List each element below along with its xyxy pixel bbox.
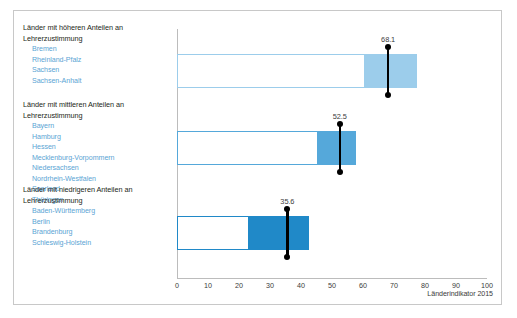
list-item: Hamburg [23,132,163,143]
list-item: Mecklenburg-Vorpommern [23,153,163,164]
x-tick-label: 100 [481,281,493,290]
chart-figure: Länder mit höheren Anteilen an Lehrerzus… [13,10,502,305]
x-tick-label: 30 [266,281,274,290]
group-title-line-1: Länder mit mittleren Anteilen an [23,100,163,111]
list-item: Rheinland-Pfalz [23,55,163,66]
x-axis-line [177,278,487,279]
list-item: Baden-Württemberg [23,206,163,217]
bar-outline-segment [177,54,365,88]
bar-fill-segment [249,216,309,250]
bar-outline-segment [177,131,318,165]
category-label-column: Länder mit höheren Anteilen an Lehrerzus… [23,19,163,294]
mean-marker [387,47,389,95]
state-list: Bremen Rheinland-Pfalz Sachsen Sachsen-A… [23,44,163,86]
x-tick-label: 20 [235,281,243,290]
group-title-line-2: Lehrerzustimmung [23,196,163,207]
bar-fill-segment [318,131,356,165]
bar-outline-segment [177,216,249,250]
bar-row: 35.6 [163,216,487,250]
list-item: Nordrhein-Westfalen [23,174,163,185]
group-title-line-1: Länder mit höheren Anteilen an [23,23,163,34]
x-tick-label: 50 [328,281,336,290]
group-title-line-2: Lehrerzustimmung [23,34,163,45]
list-item: Sachsen [23,65,163,76]
x-tick-label: 80 [421,281,429,290]
mean-marker [286,209,288,257]
list-item: Schleswig-Holstein [23,238,163,249]
marker-dot-top [337,121,343,127]
mean-value-label: 35.6 [280,197,294,206]
source-note: Länderindikator 2015 [427,290,493,298]
mean-value-label: 52.5 [333,112,347,121]
marker-dot-bottom [284,254,290,260]
x-tick-label: 10 [204,281,212,290]
x-tick-label: 60 [359,281,367,290]
x-tick-label: 70 [390,281,398,290]
marker-dot-top [385,44,391,50]
bar-row: 68.1 [163,54,487,88]
marker-dot-bottom [385,92,391,98]
list-item: Brandenburg [23,227,163,238]
bar-fill-segment [365,54,418,88]
group-title-line-1: Länder mit niedrigeren Anteilen an [23,185,163,196]
mean-marker [339,124,341,172]
list-item: Berlin [23,217,163,228]
list-item: Hessen [23,142,163,153]
list-item: Niedersachsen [23,163,163,174]
x-tick-label: 40 [297,281,305,290]
marker-dot-bottom [337,169,343,175]
list-item: Bremen [23,44,163,55]
bar-row: 52.5 [163,131,487,165]
plot-area: 68.152.535.6 0102030405060708090100 [163,19,493,294]
x-tick-label: 90 [452,281,460,290]
state-list: Baden-Württemberg Berlin Brandenburg Sch… [23,206,163,248]
list-item: Bayern [23,121,163,132]
x-tick-label: 0 [175,281,179,290]
category-group-lower: Länder mit niedrigeren Anteilen an Lehre… [23,185,163,248]
group-title-line-2: Lehrerzustimmung [23,111,163,122]
category-group-higher: Länder mit höheren Anteilen an Lehrerzus… [23,23,163,86]
list-item: Sachsen-Anhalt [23,76,163,87]
mean-value-label: 68.1 [381,35,395,44]
marker-dot-top [284,206,290,212]
